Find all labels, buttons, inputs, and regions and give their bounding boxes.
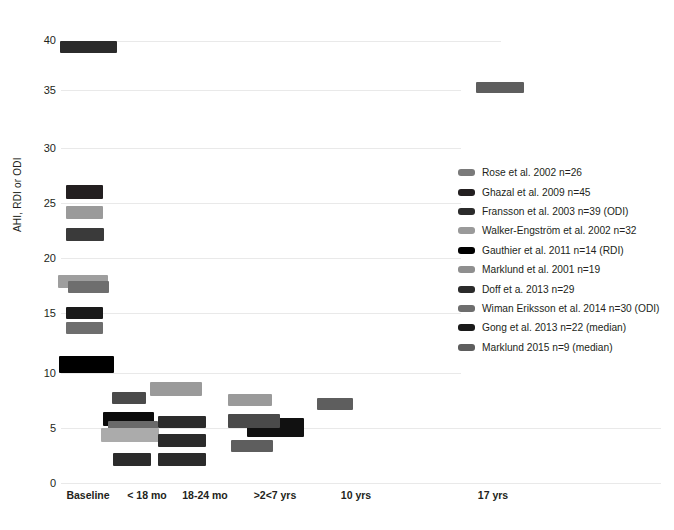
- bar-doff-18to24mo: [158, 434, 206, 447]
- legend-swatch-icon: [458, 286, 475, 293]
- bar-gong-baseline: [66, 307, 103, 319]
- legend-item[interactable]: Ghazal et al. 2009 n=45: [458, 182, 672, 201]
- chart-container: AHI, RDI or ODI 4035302520151050 Baselin…: [0, 0, 674, 530]
- legend-item-label: Gong et al. 2013 n=22 (median): [482, 322, 626, 333]
- bar-doff-baseline: [60, 41, 117, 53]
- bar-gauthier-baseline: [59, 356, 114, 373]
- bar-rose-baseline: [68, 281, 109, 293]
- bar-walker-baseline: [66, 206, 103, 219]
- bar-ghazal-baseline: [66, 185, 103, 199]
- legend-swatch-icon: [458, 266, 475, 273]
- bar-fransson-18to24mo: [158, 453, 206, 466]
- bar-wiman-lt18mo: [158, 416, 206, 428]
- legend-swatch-icon: [458, 305, 475, 312]
- bar-marklund2015-17yrs: [476, 82, 524, 93]
- legend-item[interactable]: Marklund 2015 n=9 (median): [458, 338, 672, 357]
- x-tick-label-baseline: Baseline: [56, 489, 120, 501]
- bar-fransson-18to24mo-hi: [112, 392, 146, 404]
- x-tick-label-17-yrs: 17 yrs: [468, 489, 518, 501]
- legend-item-label: Gauthier et al. 2011 n=14 (RDI): [482, 245, 624, 256]
- legend-item-label: Doff et a. 2013 n=29: [482, 284, 574, 295]
- legend-swatch-icon: [458, 189, 475, 196]
- legend-swatch-icon: [458, 169, 475, 176]
- bar-walker-18to24mo: [150, 382, 202, 396]
- bar-wiman-baseline: [66, 322, 103, 334]
- legend-item-label: Rose et al. 2002 n=26: [482, 167, 582, 178]
- bar-wiman-gt2lt7yrs: [231, 440, 273, 452]
- bar-marklund2015-10yrs: [317, 398, 353, 410]
- x-tick-label-10-yrs: 10 yrs: [331, 489, 381, 501]
- bar-fransson-baseline: [66, 228, 104, 241]
- legend-item[interactable]: Doff et a. 2013 n=29: [458, 279, 672, 298]
- legend-swatch-icon: [458, 227, 475, 234]
- bar-gauthier-gt2lt7yrs: [228, 414, 280, 428]
- legend-item[interactable]: Fransson et al. 2003 n=39 (ODI): [458, 202, 672, 221]
- legend-swatch-icon: [458, 208, 475, 215]
- x-tick-label-18-24-mo: 18-24 mo: [173, 489, 237, 501]
- bar-gong-lt18mo: [113, 453, 151, 466]
- legend-item[interactable]: Marklund et al. 2001 n=19: [458, 260, 672, 279]
- legend-swatch-icon: [458, 247, 475, 254]
- legend-item-label: Ghazal et al. 2009 n=45: [482, 187, 590, 198]
- legend-item-label: Walker-Engström et al. 2002 n=32: [482, 225, 637, 236]
- bar-marklund2001-lt18mo: [101, 428, 159, 442]
- legend-item[interactable]: Walker-Engström et al. 2002 n=32: [458, 221, 672, 240]
- legend-item-label: Marklund 2015 n=9 (median): [482, 342, 613, 353]
- x-tick-label--18-mo: < 18 mo: [118, 489, 176, 501]
- legend-swatch-icon: [458, 344, 475, 351]
- chart-legend: Rose et al. 2002 n=26Ghazal et al. 2009 …: [458, 163, 672, 357]
- legend-item[interactable]: Gauthier et al. 2011 n=14 (RDI): [458, 241, 672, 260]
- legend-item[interactable]: Gong et al. 2013 n=22 (median): [458, 318, 672, 337]
- legend-item[interactable]: Rose et al. 2002 n=26: [458, 163, 672, 182]
- legend-item-label: Fransson et al. 2003 n=39 (ODI): [482, 206, 628, 217]
- legend-item-label: Marklund et al. 2001 n=19: [482, 264, 600, 275]
- legend-item[interactable]: Wiman Eriksson et al. 2014 n=30 (ODI): [458, 299, 672, 318]
- x-tick-label--2-7-yrs: >2<7 yrs: [244, 489, 306, 501]
- legend-swatch-icon: [458, 324, 475, 331]
- legend-item-label: Wiman Eriksson et al. 2014 n=30 (ODI): [482, 303, 660, 314]
- bar-walker-gt2lt7yrs: [228, 394, 272, 406]
